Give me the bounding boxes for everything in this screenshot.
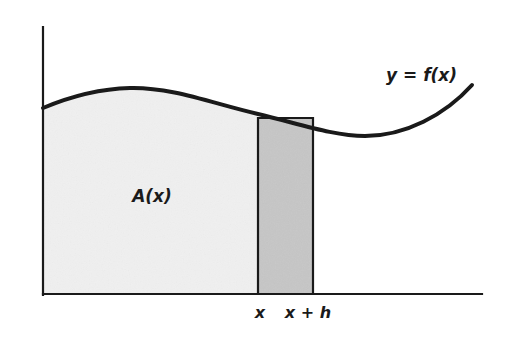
area-function-label: A(x) <box>130 186 172 206</box>
strip-region-fill <box>258 118 313 293</box>
figure-canvas: A(x) x x + h y = f(x) <box>0 0 507 337</box>
area-function-diagram: A(x) x x + h y = f(x) <box>0 0 507 337</box>
curve-equation-label: y = f(x) <box>386 65 457 85</box>
x-axis-tick-label-x-plus-h: x + h <box>284 303 331 322</box>
x-axis-tick-label-x: x <box>254 303 266 322</box>
